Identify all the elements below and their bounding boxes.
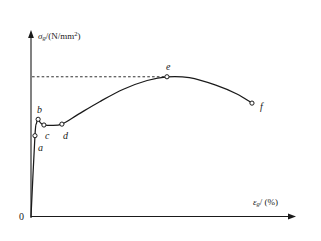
curve-marker-a — [33, 134, 37, 138]
point-label-a: a — [38, 143, 43, 153]
point-label-d: d — [63, 131, 68, 141]
x-axis-label-unit: / (%) — [260, 197, 278, 207]
stress-strain-curve — [31, 76, 252, 216]
curve-marker-b — [36, 117, 40, 121]
stress-strain-figure: abcdef 0 σg/(N/mm2) εg/ (%) — [0, 0, 321, 241]
curve-markers-group — [33, 75, 254, 138]
point-label-f: f — [260, 102, 263, 112]
y-axis-arrowhead — [28, 30, 34, 38]
curve-marker-e — [165, 75, 169, 79]
curve-marker-f — [250, 101, 254, 105]
x-axis-arrowhead — [288, 214, 296, 220]
axes-group — [28, 30, 296, 219]
curve-marker-d — [60, 122, 64, 126]
y-axis-label-close: ) — [77, 31, 80, 41]
point-label-e: e — [166, 62, 170, 72]
curve-marker-c — [42, 123, 46, 127]
origin-label: 0 — [19, 212, 24, 222]
x-axis-label: εg/ (%) — [253, 198, 278, 208]
y-axis-label: σg/(N/mm2) — [38, 31, 80, 42]
point-label-b: b — [37, 105, 42, 115]
point-label-c: c — [45, 131, 49, 141]
y-axis-label-unit: /(N/mm — [46, 31, 75, 41]
